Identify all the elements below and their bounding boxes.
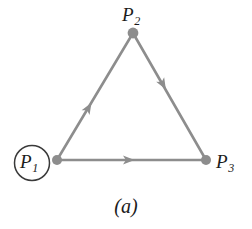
vertex-label-p3-subscript: 3 [228, 161, 234, 175]
vertex-label-p1-subscript: 1 [32, 161, 38, 175]
figure-caption: (a) [0, 196, 252, 216]
vertex-label-p2: P2 [122, 5, 140, 24]
node-p2 [128, 28, 139, 39]
node-p1 [52, 155, 62, 165]
vertex-label-p3: P3 [216, 152, 234, 171]
vertex-label-p2-subscript: 2 [134, 14, 140, 28]
vertex-label-p2-base: P [122, 4, 134, 25]
vertex-label-p3-base: P [216, 151, 228, 172]
edge-p1-p2 [57, 33, 133, 160]
edge-p2-p3 [133, 33, 206, 160]
figure-container: P1 P2 P3 (a) [0, 0, 252, 229]
vertex-label-p1-base: P [20, 151, 32, 172]
node-p3 [201, 155, 211, 165]
vertex-label-p1: P1 [20, 152, 38, 171]
